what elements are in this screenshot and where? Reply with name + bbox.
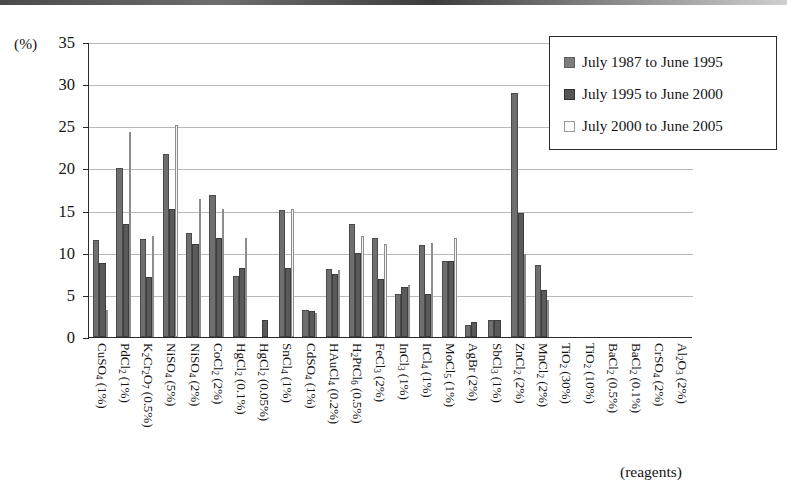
- bar-group: [321, 42, 344, 337]
- x-axis-label-cell: FeCl3 (2%): [367, 341, 390, 461]
- x-axis-label: MoCl5 (1%): [442, 343, 458, 407]
- bar-group: [414, 42, 437, 337]
- series-1-swatch: [564, 57, 575, 68]
- x-axis-label: BaCl2 (0.5%): [604, 343, 620, 413]
- x-axis-label-cell: HAuCl4 (0.2%): [320, 341, 343, 461]
- x-axis-label-cell: NiSO4 (2%): [181, 341, 204, 461]
- x-axis-label-cell: H2PtCl6 (0.5%): [344, 341, 367, 461]
- x-axis-label: HgCl2 (0.1%): [233, 343, 249, 415]
- x-axis-label: H2PtCl6 (0.5%): [349, 343, 365, 424]
- bar-series-3: [199, 199, 201, 337]
- x-axis-label-cell: InCl3 (1%): [390, 341, 413, 461]
- x-axis-label-cell: ZnCl2 (2%): [506, 341, 529, 461]
- bar-series-3: [361, 236, 363, 337]
- bar-group: [275, 42, 298, 337]
- series-3-swatch: [564, 121, 575, 132]
- bar-series-3: [175, 125, 177, 337]
- bar-group: [89, 42, 112, 337]
- legend-item-label: July 2000 to June 2005: [582, 117, 723, 135]
- y-axis-tick-label: 20: [35, 161, 75, 178]
- bar-group: [135, 42, 158, 337]
- x-axis-label: SnCl4 (1%): [279, 343, 295, 403]
- x-axis-label-cell: TiO2 (30%): [553, 341, 576, 461]
- x-axis-label: CdSO4 (1%): [302, 343, 318, 409]
- bar-group: [112, 42, 135, 337]
- bar-series-2: [262, 320, 268, 337]
- y-axis-tick-label: 35: [35, 35, 75, 52]
- x-axis-label: HgCl2 (0.05%): [256, 343, 272, 421]
- bar-group: [252, 42, 275, 337]
- x-axis-label-cell: SnCl4 (1%): [274, 341, 297, 461]
- bar-group: [507, 42, 530, 337]
- bar-series-3: [222, 209, 224, 337]
- bar-group: [461, 42, 484, 337]
- bar-group: [438, 42, 461, 337]
- y-axis-tick-label: 25: [35, 119, 75, 136]
- y-axis-tick-label: 30: [35, 77, 75, 94]
- x-axis-label: CuSO4 (1%): [93, 343, 109, 409]
- x-axis-label: ZnCl2 (2%): [511, 343, 527, 403]
- y-axis-tick-label: 10: [35, 246, 75, 263]
- bar-group: [228, 42, 251, 337]
- x-axis-label-cell: BaCl2 (0.5%): [599, 341, 622, 461]
- y-axis-tick: [83, 338, 89, 339]
- x-axis-label: TiO2 (30%): [558, 343, 574, 404]
- x-axis-label: InCl3 (1%): [395, 343, 411, 400]
- bar-series-3: [291, 209, 293, 337]
- x-axis-label-cell: K2Cr2O7 (0.5%): [134, 341, 157, 461]
- x-axis-label: NiSO4 (5%): [163, 343, 179, 406]
- bar-group: [159, 42, 182, 337]
- x-axis-label-cell: CuSO4 (1%): [88, 341, 111, 461]
- x-axis-label-cell: BaCl2 (0.1%): [622, 341, 645, 461]
- legend-item: July 2000 to June 2005: [564, 110, 766, 142]
- y-axis-tick-label: 15: [35, 204, 75, 221]
- bar-series-3: [547, 300, 549, 337]
- x-axis-label: HAuCl4 (0.2%): [326, 343, 342, 424]
- x-axis-label: CoCl2 (2%): [209, 343, 225, 404]
- x-axis-label: AgBr (2%): [465, 343, 481, 401]
- bar-group: [205, 42, 228, 337]
- x-axis-label: PdCl2 (1%): [116, 343, 132, 403]
- x-axis-label-cell: MnCl2 (2%): [529, 341, 552, 461]
- y-axis-tick-label: 0: [35, 330, 75, 347]
- x-axis-label-cell: SbCl3 (1%): [483, 341, 506, 461]
- x-axis-label-cell: HgCl2 (0.05%): [251, 341, 274, 461]
- x-axis-label-cell: IrCl4 (1%): [413, 341, 436, 461]
- bar-group: [484, 42, 507, 337]
- x-axis-label-cell: AgBr (2%): [460, 341, 483, 461]
- y-axis-unit-label: (%): [14, 35, 37, 53]
- x-axis-label: TiO2 (10%): [581, 343, 597, 404]
- x-axis-label: MnCl2 (2%): [535, 343, 551, 407]
- x-axis-label-cell: PdCl2 (1%): [111, 341, 134, 461]
- bar-series-3: [245, 238, 247, 337]
- x-axis-label: Al2O3 (2%): [674, 343, 690, 404]
- x-axis-label-cell: CdSO4 (1%): [297, 341, 320, 461]
- bar-group: [298, 42, 321, 337]
- x-axis-label-cell: NiSO4 (5%): [158, 341, 181, 461]
- legend-item: July 1987 to June 1995: [564, 46, 766, 78]
- bar-chart: (%) CuSO4 (1%)PdCl2 (1%)K2Cr2O7 (0.5%)Ni…: [0, 0, 787, 502]
- x-axis-label: CrSO4 (2%): [651, 343, 667, 406]
- bar-group: [182, 42, 205, 337]
- y-axis-tick-label: 5: [35, 288, 75, 305]
- bar-series-3: [524, 254, 526, 337]
- bar-series-3: [129, 132, 131, 337]
- x-axis-label: IrCl4 (1%): [418, 343, 434, 398]
- series-2-swatch: [564, 89, 575, 100]
- x-axis-label-cell: HgCl2 (0.1%): [227, 341, 250, 461]
- bar-series-3: [106, 310, 108, 337]
- bar-series-2: [494, 320, 500, 337]
- x-axis-label: BaCl2 (0.1%): [628, 343, 644, 413]
- x-axis-label-cell: TiO2 (10%): [576, 341, 599, 461]
- x-axis-label: K2Cr2O7 (0.5%): [140, 343, 156, 428]
- bar-series-3: [315, 313, 317, 337]
- bar-series-3: [431, 243, 433, 337]
- x-axis-label-cell: CrSO4 (2%): [646, 341, 669, 461]
- bar-series-3: [408, 285, 410, 337]
- bar-series-3: [338, 270, 340, 337]
- bar-group: [368, 42, 391, 337]
- bar-series-3: [454, 238, 456, 337]
- legend-item-label: July 1987 to June 1995: [582, 53, 723, 71]
- bar-series-2: [471, 322, 477, 337]
- x-axis-tick-labels: CuSO4 (1%)PdCl2 (1%)K2Cr2O7 (0.5%)NiSO4 …: [88, 341, 692, 461]
